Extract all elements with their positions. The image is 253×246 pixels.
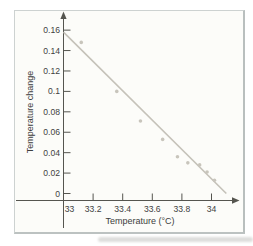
- x-tick-label: 33.6: [144, 204, 161, 214]
- y-tick-label: 0.04: [43, 148, 60, 158]
- scan-artifact: [98, 237, 253, 242]
- data-point: [115, 90, 119, 94]
- y-tick-label: 0: [55, 189, 60, 199]
- y-tick-label: 0.12: [43, 66, 60, 76]
- y-tick-label: 0.14: [43, 46, 60, 56]
- y-tick-label: 0.16: [43, 25, 60, 35]
- data-point: [198, 163, 202, 167]
- data-point: [139, 119, 143, 123]
- fit-line: [64, 32, 227, 193]
- scatter-plot: 00.020.040.060.080.10.120.140.163333.233…: [0, 0, 253, 246]
- data-point: [79, 41, 83, 45]
- y-axis-arrowhead-icon: [60, 12, 66, 20]
- data-point: [213, 178, 217, 182]
- data-point: [205, 170, 209, 174]
- x-tick-label: 34: [207, 204, 217, 214]
- data-point: [186, 161, 190, 165]
- y-axis-title: Temperature change: [25, 71, 35, 154]
- x-tick-label: 33.4: [114, 204, 131, 214]
- x-tick-label: 33.8: [174, 204, 191, 214]
- x-tick-label: 33.2: [85, 204, 102, 214]
- x-tick-label: 33: [65, 204, 75, 214]
- y-tick-label: 0.08: [43, 107, 60, 117]
- data-point: [161, 138, 165, 142]
- x-axis-title: Temperature (°C): [105, 216, 174, 226]
- x-axis-arrowhead-icon: [232, 197, 240, 204]
- y-tick-label: 0.1: [48, 86, 60, 96]
- data-point: [176, 155, 180, 159]
- y-tick-label: 0.02: [43, 168, 60, 178]
- y-tick-label: 0.06: [43, 127, 60, 137]
